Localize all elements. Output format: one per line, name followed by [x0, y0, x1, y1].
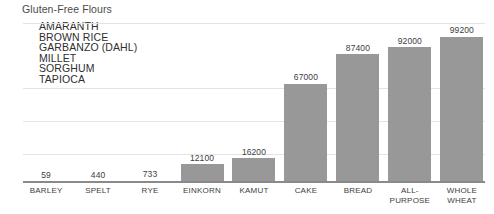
bar-slot[interactable]: 59 [23, 0, 69, 182]
plot-area: 59440733121001620067000874009200099200 [23, 0, 485, 182]
bar[interactable] [181, 164, 224, 182]
bar[interactable] [336, 54, 379, 182]
bar-slot[interactable]: 87400 [335, 0, 381, 182]
bar-value-label: 92000 [387, 36, 433, 46]
category-label: ALL-PURPOSE [387, 186, 433, 205]
bar-value-label: 440 [75, 170, 121, 180]
bar-value-label: 87400 [335, 43, 381, 53]
bar-slot[interactable]: 16200 [231, 0, 277, 182]
bar-slot[interactable]: 12100 [179, 0, 225, 182]
bar-slot[interactable]: 99200 [439, 0, 485, 182]
bar-slot[interactable]: 733 [127, 0, 173, 182]
category-label: BREAD [335, 186, 381, 205]
category-label: EINKORN [179, 186, 225, 205]
bar-value-label: 99200 [439, 25, 485, 35]
bar-slot[interactable]: 67000 [283, 0, 329, 182]
category-label: SPELT [75, 186, 121, 205]
bar-slot[interactable]: 440 [75, 0, 121, 182]
bar[interactable] [440, 37, 483, 182]
category-label: CAKE [283, 186, 329, 205]
bar[interactable] [232, 158, 275, 182]
bar-value-label: 12100 [179, 153, 225, 163]
bar-value-label: 67000 [283, 72, 329, 82]
bar-value-label: 16200 [231, 147, 277, 157]
category-label: WHOLE WHEAT [439, 186, 485, 205]
bar[interactable] [388, 47, 431, 182]
x-axis-line [23, 181, 485, 183]
bar-value-label: 733 [127, 169, 173, 179]
bar-slot[interactable]: 92000 [387, 0, 433, 182]
category-label: RYE [127, 186, 173, 205]
chart-root: Gluten-Free Flours AMARANTH BROWN RICE G… [0, 0, 494, 214]
bar-value-label: 59 [23, 170, 69, 180]
category-label: KAMUT [231, 186, 277, 205]
bar-series: 59440733121001620067000874009200099200 [23, 0, 485, 182]
bar[interactable] [284, 84, 327, 182]
category-label: BARLEY [23, 186, 69, 205]
category-axis-labels: BARLEYSPELTRYEEINKORNKAMUTCAKEBREADALL-P… [23, 186, 485, 205]
